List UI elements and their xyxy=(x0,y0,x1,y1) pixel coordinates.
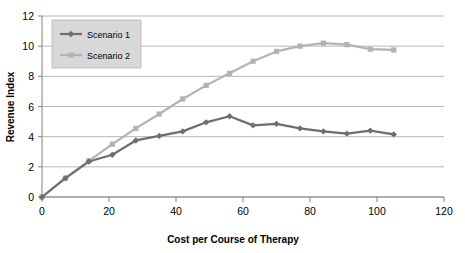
y-axis-title: Revenue Index xyxy=(5,71,16,142)
legend-background xyxy=(52,20,141,68)
data-point-s2-4 xyxy=(133,126,138,131)
x-tick-label-100: 100 xyxy=(368,205,386,217)
legend-label-1: Scenario 1 xyxy=(87,30,130,40)
data-point-s2-9 xyxy=(250,59,255,64)
data-point-s2-6 xyxy=(180,96,185,101)
data-point-s2-10 xyxy=(274,49,279,54)
data-point-s2-3 xyxy=(110,142,115,147)
x-tick-label-60: 60 xyxy=(237,205,249,217)
data-point-s2-7 xyxy=(204,83,209,88)
data-point-s2-5 xyxy=(157,111,162,116)
y-tick-label-4: 4 xyxy=(28,131,34,143)
y-tick-label-10: 10 xyxy=(22,40,34,52)
data-point-s2-15 xyxy=(391,47,396,52)
data-point-s2-11 xyxy=(297,44,302,49)
chart-container: 024681012 020406080100120 Scenario 1Scen… xyxy=(0,0,465,253)
data-point-s2-14 xyxy=(368,47,373,52)
y-tick-label-0: 0 xyxy=(28,191,34,203)
y-tick-label-6: 6 xyxy=(28,101,34,113)
legend-swatch-marker-2 xyxy=(68,52,73,57)
data-point-s2-12 xyxy=(321,41,326,46)
x-tick-label-120: 120 xyxy=(435,205,453,217)
x-tick-label-0: 0 xyxy=(39,205,45,217)
x-axis-title: Cost per Course of Therapy xyxy=(167,234,299,245)
y-tick-label-2: 2 xyxy=(28,161,34,173)
y-tick-label-12: 12 xyxy=(22,10,34,22)
legend-label-2: Scenario 2 xyxy=(87,51,130,61)
x-tick-label-20: 20 xyxy=(103,205,115,217)
x-tick-label-40: 40 xyxy=(170,205,182,217)
chart-legend: Scenario 1Scenario 2 xyxy=(52,20,141,68)
x-tick-label-80: 80 xyxy=(304,205,316,217)
y-tick-label-8: 8 xyxy=(28,70,34,82)
data-point-s2-8 xyxy=(227,71,232,76)
data-point-s2-13 xyxy=(344,42,349,47)
revenue-index-line-chart: 024681012 020406080100120 Scenario 1Scen… xyxy=(0,0,465,253)
